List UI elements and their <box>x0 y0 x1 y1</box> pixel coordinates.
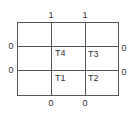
cell-label-t1: T1 <box>55 73 66 83</box>
left-label-1: 0 <box>8 41 13 51</box>
bottom-label-1: 0 <box>48 98 53 108</box>
outer-border-bottom <box>17 95 119 96</box>
top-label-1: 1 <box>48 10 53 20</box>
right-label-1: 0 <box>121 43 126 53</box>
cell-label-t4: T4 <box>55 48 66 58</box>
right-label-2: 0 <box>121 67 126 77</box>
outer-border-top <box>17 22 119 23</box>
vertical-line-2 <box>85 22 86 96</box>
outer-border-left <box>17 22 18 96</box>
horizontal-line-2 <box>17 70 119 71</box>
top-label-2: 1 <box>82 10 87 20</box>
cell-label-t3: T3 <box>88 49 99 59</box>
left-label-2: 0 <box>8 65 13 75</box>
horizontal-line-1 <box>17 46 119 47</box>
vertical-line-1 <box>51 22 52 96</box>
outer-border-right <box>118 22 119 96</box>
bottom-label-2: 0 <box>82 98 87 108</box>
cell-label-t2: T2 <box>88 73 99 83</box>
